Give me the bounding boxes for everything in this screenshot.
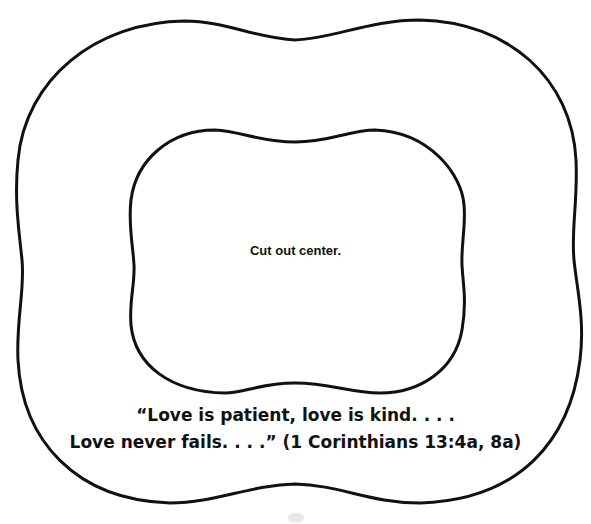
outer-frame-outline <box>17 20 582 503</box>
verse-line-2: Love never fails. . . .” (1 Corinthians … <box>0 432 591 452</box>
verse-line-1: “Love is patient, love is kind. . . . <box>0 405 591 425</box>
inner-cutout-outline <box>130 130 464 393</box>
smudge-mark <box>288 513 304 523</box>
cut-out-center-instruction: Cut out center. <box>0 243 591 258</box>
